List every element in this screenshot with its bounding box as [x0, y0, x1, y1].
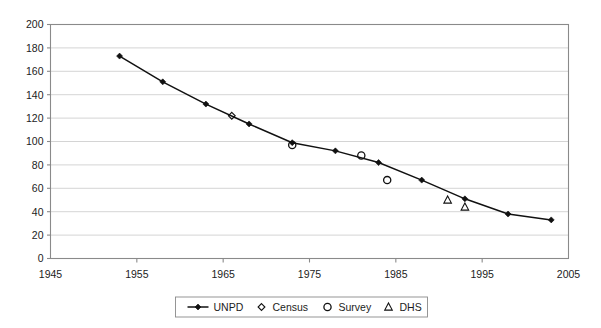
y-axis-tick-label: 180 — [26, 42, 44, 54]
x-axis-tick-label: 1955 — [125, 268, 149, 280]
x-axis-tick-label: 1945 — [39, 268, 63, 280]
y-axis-tick-label: 0 — [38, 252, 44, 264]
legend-label-census: Census — [273, 301, 309, 313]
y-axis-tick-label: 100 — [26, 135, 44, 147]
y-axis-tick-label: 80 — [32, 159, 44, 171]
x-axis-tick-label: 1975 — [298, 268, 322, 280]
legend-label-unpd: UNPD — [214, 301, 244, 313]
y-axis-tick-label: 60 — [32, 182, 44, 194]
x-axis-tick-label: 1965 — [211, 268, 235, 280]
x-axis-tick-label: 1995 — [470, 268, 494, 280]
y-axis-tick-label: 120 — [26, 112, 44, 124]
y-axis-tick-label: 200 — [26, 18, 44, 30]
line-chart: 020406080100120140160180200 194519551965… — [0, 0, 601, 328]
y-axis-tick-label: 160 — [26, 65, 44, 77]
legend-label-dhs: DHS — [400, 301, 422, 313]
y-axis-tick-label: 140 — [26, 89, 44, 101]
chart-legend: UNPDCensusSurveyDHS — [176, 297, 428, 317]
legend-label-survey: Survey — [339, 301, 372, 313]
x-axis-tick-label: 2005 — [557, 268, 581, 280]
y-axis-tick-label: 20 — [32, 229, 44, 241]
y-axis-tick-label: 40 — [32, 206, 44, 218]
chart-container: 020406080100120140160180200 194519551965… — [0, 0, 601, 328]
x-axis-tick-label: 1985 — [384, 268, 408, 280]
